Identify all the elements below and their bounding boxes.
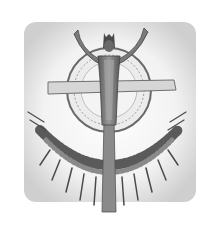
cross-shaft-icon xyxy=(102,120,116,212)
illustration xyxy=(0,0,214,233)
